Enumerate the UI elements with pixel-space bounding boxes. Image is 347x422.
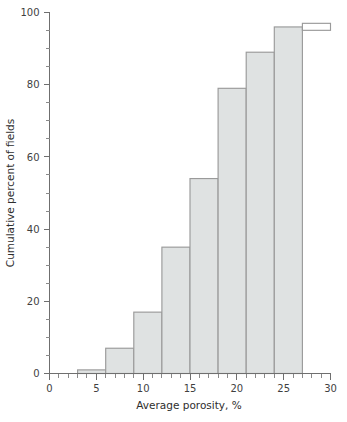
x-tick-label: 10 [137,383,150,394]
x-tick-label: 5 [93,383,99,394]
step-block [106,348,134,373]
x-tick-label: 30 [324,383,337,394]
step-block [246,52,274,373]
y-axis-title: Cumulative percent of fields [4,119,16,267]
y-tick-label: 100 [20,7,39,18]
step-block [134,312,162,373]
step-block [274,27,302,374]
y-tick-label: 40 [27,224,40,235]
step-block [190,179,218,374]
x-tick-label: 20 [230,383,243,394]
y-tick-label: 0 [33,368,39,379]
step-block [162,247,190,373]
step-block [78,370,106,374]
x-tick-label: 15 [184,383,197,394]
cropped-caption-line [0,413,347,422]
x-tick-label: 0 [46,383,52,394]
y-tick-label: 60 [27,152,40,163]
y-tick-label: 20 [27,296,40,307]
step-block [218,88,246,373]
cumulative-step-plot: 020406080100 051015202530 Average porosi… [0,0,347,422]
chart-figure: 020406080100 051015202530 Average porosi… [0,0,347,422]
y-tick-label: 80 [27,79,40,90]
x-axis-title: Average porosity, % [136,399,241,411]
x-tick-label: 25 [277,383,290,394]
